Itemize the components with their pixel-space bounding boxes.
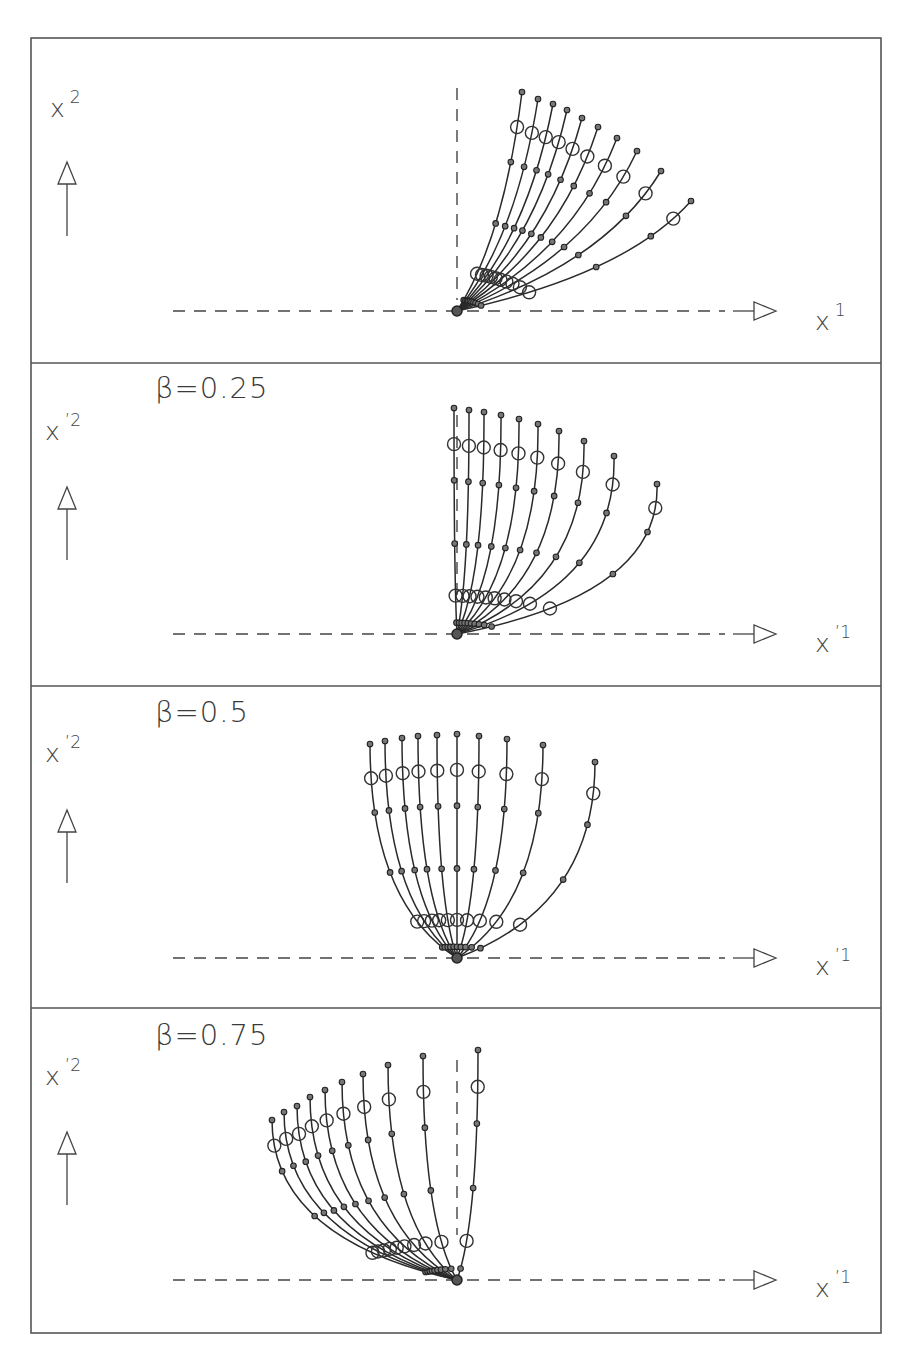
proper-time-dot-marker [389,1131,395,1137]
proper-time-dot-marker [470,1185,476,1191]
proper-time-dot-marker [478,303,484,309]
proper-time-dot-marker [521,164,527,170]
proper-time-dot-marker [501,806,507,812]
world-lines [457,89,694,311]
proper-time-dot-marker [329,1148,335,1154]
proper-time-dot-marker [531,488,537,494]
proper-time-dot-marker [401,1191,407,1197]
x-arrow-head-icon [754,1271,776,1289]
proper-time-dot-marker [464,542,470,548]
proper-time-dot-marker [645,529,651,535]
proper-time-dot-marker [402,806,408,812]
x-arrow-head-icon [754,949,776,967]
proper-time-dot-marker [585,822,591,828]
panel-frames [31,38,881,1333]
proper-time-dot-marker [476,733,482,739]
proper-time-dot-marker [269,1117,275,1123]
x-axis-label: x’1 [815,1267,851,1303]
world-line [457,431,559,634]
proper-time-dot-marker [422,1125,428,1131]
proper-time-dot-marker [339,1079,345,1085]
proper-time-dot-marker [307,1094,313,1100]
y-arrow-head-icon [58,810,76,832]
world-lines [268,1047,484,1280]
x-axis-label: x’1 [815,945,851,981]
proper-time-dot-marker [504,736,510,742]
proper-time-dot-marker [520,228,526,234]
y-axis-label: x’2 [45,410,81,446]
proper-time-dot-marker [587,191,593,197]
proper-time-dot-marker [502,223,508,229]
proper-time-dot-marker [519,89,525,95]
proper-time-dot-marker [493,868,499,874]
proper-time-dot-marker [538,235,544,241]
world-line-diagram: x2x1β=0.25x’2x’1β=0.5x’2x’1β=0.75x’2x’1 [0,0,913,1363]
proper-time-dot-marker [540,742,546,748]
proper-time-dot-marker [478,945,484,951]
proper-time-dot-marker [561,244,567,250]
proper-time-dot-marker [529,231,535,237]
proper-time-dot-marker [387,870,393,876]
proper-time-dot-marker [294,1103,300,1109]
proper-time-dot-marker [520,870,526,876]
proper-time-dot-marker [360,1071,366,1077]
proper-time-dot-marker [366,1198,372,1204]
proper-time-dot-marker [312,1213,318,1219]
proper-time-dot-marker [471,866,477,872]
panel-2: β=0.25x’2x’1 [45,371,851,658]
proper-time-dot-marker [481,409,487,415]
origin-marker [452,306,462,316]
world-line [272,1120,457,1280]
world-lines [448,405,662,634]
proper-time-dot-marker [535,810,541,816]
beta-label: β=0.25 [155,371,268,405]
proper-time-dot-marker [592,759,598,765]
world-lines [365,731,600,958]
proper-time-dot-marker [517,547,523,553]
proper-time-dot-marker [611,453,617,459]
origin-marker [452,629,462,639]
proper-time-dot-marker [535,96,541,102]
proper-time-dot-marker [634,148,640,154]
proper-time-dot-marker [581,438,587,444]
panel-4: β=0.75x’2x’1 [45,1018,851,1303]
proper-time-dot-marker [513,485,519,491]
proper-time-dot-marker [648,233,654,239]
proper-time-dot-marker [534,167,540,173]
proper-time-dot-marker [474,1121,480,1127]
proper-time-dot-marker [549,239,555,245]
proper-time-dot-marker [322,1087,328,1093]
beta-label: β=0.5 [155,695,249,729]
panel-1: x2x1 [50,87,846,336]
proper-time-dot-marker [658,168,664,174]
proper-time-dot-marker [614,135,620,141]
proper-time-dot-marker [508,159,514,165]
proper-time-dot-marker [556,428,562,434]
proper-time-dot-marker [516,416,522,422]
proper-time-dot-marker [417,804,423,810]
y-axis-label: x’2 [45,1055,81,1091]
proper-time-dot-marker [454,731,460,737]
proper-time-dot-marker [475,1047,481,1053]
proper-time-dot-marker [551,493,557,499]
proper-time-dot-marker [593,264,599,270]
proper-time-dot-marker [412,867,418,873]
proper-time-dot-marker [576,252,582,258]
proper-time-dot-marker [321,1210,327,1216]
proper-time-dot-marker [480,480,486,486]
proper-time-dot-marker [424,866,430,872]
proper-time-dot-marker [496,482,502,488]
y-arrow-head-icon [58,487,76,509]
proper-time-dot-marker [466,479,472,485]
proper-time-dot-marker [489,624,495,630]
proper-time-dot-marker [315,1153,321,1159]
y-axis-label: x’2 [45,732,81,768]
proper-time-dot-marker [434,732,440,738]
proper-time-dot-marker [291,1163,297,1169]
proper-time-dot-marker [603,199,609,205]
proper-time-dot-marker [475,542,481,548]
proper-time-dot-marker [415,733,421,739]
proper-time-dot-marker [303,1159,309,1165]
proper-time-dot-marker [534,550,540,556]
proper-time-dot-marker [469,945,475,951]
